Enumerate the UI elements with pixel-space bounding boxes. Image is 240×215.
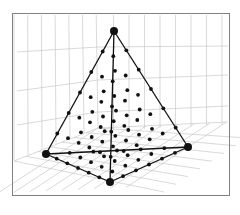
lattice-point — [174, 126, 178, 130]
lattice-point — [124, 48, 128, 52]
grid-planes — [0, 15, 240, 193]
lattice-point — [138, 108, 142, 112]
lattice-point — [67, 111, 71, 115]
lattice-point — [68, 151, 72, 155]
lattice-point — [111, 54, 115, 58]
grid-line-vertical — [69, 15, 70, 139]
lattice-point — [113, 159, 117, 163]
lattice-point — [97, 175, 101, 179]
lattice-point — [124, 74, 128, 78]
lattice-point — [100, 165, 104, 169]
lattice-point — [162, 146, 166, 150]
lattice-point — [78, 91, 82, 95]
lattice-point — [112, 119, 116, 123]
lattice-point — [102, 89, 106, 93]
lattice-point — [55, 157, 59, 161]
lattice-point — [109, 130, 113, 134]
lattice-point — [173, 151, 177, 155]
lattice-point — [136, 93, 140, 97]
lattice-point — [87, 146, 91, 150]
grid-line-vertical — [41, 15, 42, 149]
lattice-point — [149, 87, 153, 91]
lattice-point — [113, 69, 117, 73]
grid-line-horizontal — [98, 46, 228, 47]
lattice-point — [91, 150, 95, 154]
lattice-point — [89, 160, 93, 164]
lattice-point — [89, 95, 93, 99]
lattice-point — [160, 157, 164, 161]
grid-line-vertical — [83, 15, 85, 134]
vertex-front — [106, 178, 114, 186]
lattice-point — [126, 128, 130, 132]
lattice-point — [89, 70, 93, 74]
grid-line-vertical — [96, 15, 98, 128]
lattice-point — [79, 130, 83, 134]
grid-line-horizontal — [98, 75, 228, 80]
lattice-point — [90, 135, 94, 139]
lattice-point — [76, 166, 80, 170]
grid-line-vertical — [55, 15, 56, 144]
lattice-point — [65, 161, 69, 165]
lattice-point — [109, 155, 113, 159]
lattice-point — [121, 174, 125, 178]
lattice-point — [147, 163, 151, 167]
lattice-point — [99, 100, 103, 104]
lattice-point — [150, 127, 154, 131]
lattice-point — [161, 132, 165, 136]
lattice-point — [149, 152, 153, 156]
lattice-point — [55, 132, 59, 136]
grid-line-floor — [126, 122, 226, 187]
lattice-point — [137, 68, 141, 72]
lattice-point — [112, 94, 116, 98]
lattice-point — [134, 168, 138, 172]
lattice-point — [139, 147, 143, 151]
lattice-point — [122, 149, 126, 153]
lattice-point — [148, 112, 152, 116]
lattice-point — [110, 105, 114, 109]
lattice-point — [77, 141, 81, 145]
lattice-point — [126, 153, 130, 157]
tetrahedron-lattice-figure — [0, 0, 240, 215]
lattice-point — [101, 115, 105, 119]
lattice-point — [148, 137, 152, 141]
lattice-point — [101, 50, 105, 54]
tetrahedron-edges — [46, 31, 188, 182]
lattice-point — [77, 116, 81, 120]
lattice-point — [87, 171, 91, 175]
lattice-point — [88, 120, 92, 124]
lattice-point — [123, 164, 127, 168]
vertex-left — [42, 150, 50, 158]
lattice-point — [123, 99, 127, 103]
lattice-point — [125, 113, 129, 117]
grid-line-horizontal — [17, 47, 98, 52]
lattice-point — [111, 79, 115, 83]
vertex-right — [184, 143, 192, 151]
lattice-point — [78, 156, 82, 160]
grid-line-floor — [110, 123, 210, 188]
lattice-point — [90, 110, 94, 114]
lattice-point — [161, 106, 165, 110]
lattice-point — [136, 158, 140, 162]
lattice-point — [100, 75, 104, 79]
lattice-point — [135, 143, 139, 147]
grid-line-floor — [86, 133, 236, 146]
lattice-point — [110, 170, 114, 174]
vertex-apex — [110, 27, 118, 35]
lattice-point — [100, 140, 104, 144]
lattice-point — [125, 88, 129, 92]
lattice-point — [122, 124, 126, 128]
grid-line-horizontal — [17, 112, 98, 125]
grid-line-floor-edge — [98, 122, 228, 128]
lattice-point — [98, 150, 102, 154]
lattice-point — [114, 109, 118, 113]
lattice-point — [115, 149, 119, 153]
lattice-point — [102, 154, 106, 158]
lattice-point — [66, 136, 70, 140]
lattice-point — [124, 139, 128, 143]
lattice-point — [103, 129, 107, 133]
lattice-point — [99, 125, 103, 129]
lattice-point — [113, 134, 117, 138]
lattice-point — [135, 118, 139, 122]
grid-line-floor — [98, 128, 240, 138]
lattice-point — [111, 144, 115, 148]
